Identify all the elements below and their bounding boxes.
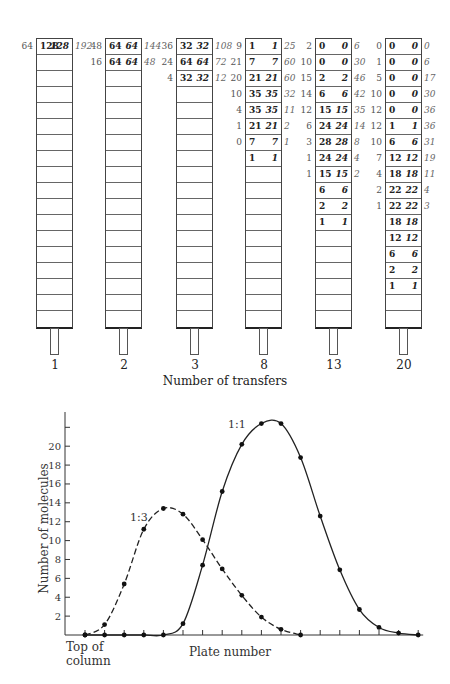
plate-cell [37,231,72,247]
upper-phase-value: 64 [109,40,122,53]
upper-phase-value: 2 [319,200,325,213]
plate-cell [177,135,212,151]
right-count: 36 [424,102,446,118]
column-label: 1 [35,358,75,372]
y-tick-label: 2 [55,611,61,622]
right-count: 3 [424,198,446,214]
data-point [337,567,342,572]
column-label: 8 [244,358,284,372]
plate-cell: 00 [386,87,421,103]
data-point [298,633,303,638]
plate-cell [106,215,141,231]
plate-cell [37,183,72,199]
plate-cell [106,279,141,295]
left-count: 48 [84,38,102,54]
plate-cell [177,87,212,103]
lower-phase-value: 6 [412,136,418,149]
lower-phase-value: 1 [412,280,418,293]
plate-cell [316,295,351,311]
data-point [279,421,284,426]
upper-phase-value: 21 [249,72,262,85]
plate-cell [106,183,141,199]
column-stem [119,328,128,355]
plate-cell: 1515 [316,103,351,119]
left-count: 1 [294,166,312,182]
plate-cell: 3232 [177,71,212,87]
y-axis-label: Number of molecules [37,463,51,594]
data-point [377,625,382,630]
data-point [298,455,303,460]
plate-cell [37,71,72,87]
left-count: 5 [364,70,382,86]
plate-cell: 22 [386,263,421,279]
y-tick-label: 18 [48,460,61,471]
left-count: 14 [294,86,312,102]
column-transfer-20: 0000000000116612121818222222221818121266… [385,38,422,329]
transfers-axis-label: Number of transfers [0,374,450,388]
upper-phase-value: 22 [389,184,402,197]
data-point [239,593,244,598]
plate-cell [177,231,212,247]
plate-cell [37,119,72,135]
data-point [102,622,107,627]
upper-phase-value: 6 [389,136,395,149]
upper-phase-value: 6 [319,184,325,197]
plate-cell: 66 [386,135,421,151]
lower-phase-value: 6 [342,88,348,101]
plate-cell [37,263,72,279]
left-count: 36 [155,38,173,54]
plate-cell [106,87,141,103]
x-axis-label: Plate number [189,645,271,659]
lower-phase-value: 1 [272,40,278,53]
plate-cell: 00 [386,103,421,119]
data-point [200,563,205,568]
plate-cell [177,167,212,183]
data-point [181,512,186,517]
series-label-1-1: 1:1 [228,418,246,431]
upper-phase-value: 0 [389,40,395,53]
lower-phase-value: 24 [335,120,348,133]
series-1-3-curve [85,508,301,635]
left-count: 2 [294,38,312,54]
plate-cell: 6464 [177,55,212,71]
plate-cell [177,295,212,311]
upper-phase-value: 12 [389,232,402,245]
data-point [181,621,186,626]
right-count: 4 [424,182,446,198]
plate-cell: 00 [386,55,421,71]
lower-phase-value: 12 [405,152,418,165]
column-label: 13 [314,358,354,372]
column-label: 20 [384,358,424,372]
plate-cell: 00 [316,55,351,71]
column-transfer-8: 117721213535353521217711 [245,38,282,329]
plate-cell: 11 [316,215,351,231]
lower-phase-value: 32 [196,40,209,53]
plate-cell: 2121 [246,119,281,135]
right-count: 6 [424,54,446,70]
lower-phase-value: 22 [405,184,418,197]
right-count: 0 [424,38,446,54]
upper-phase-value: 21 [249,120,262,133]
top-of-column-label: Top of [66,640,105,654]
upper-phase-value: 1 [249,40,255,53]
plate-cell [246,279,281,295]
plate-cell [37,103,72,119]
left-count: 64 [15,38,33,54]
column-label: 2 [104,358,144,372]
upper-phase-value: 24 [319,152,332,165]
y-tick-label: 4 [55,592,61,603]
data-point [122,633,127,638]
left-count: 12 [294,102,312,118]
lower-phase-value: 7 [272,56,278,69]
series-1-1-curve [85,420,418,636]
data-point [122,582,127,587]
plate-cell: 2121 [246,71,281,87]
left-count: 3 [294,134,312,150]
data-point [161,633,166,638]
plate-cell: 2424 [316,119,351,135]
column-stem [50,328,59,355]
y-tick-label: 20 [48,441,61,452]
plate-cell: 66 [316,87,351,103]
plate-cell: 2222 [386,183,421,199]
plate-cell [177,279,212,295]
